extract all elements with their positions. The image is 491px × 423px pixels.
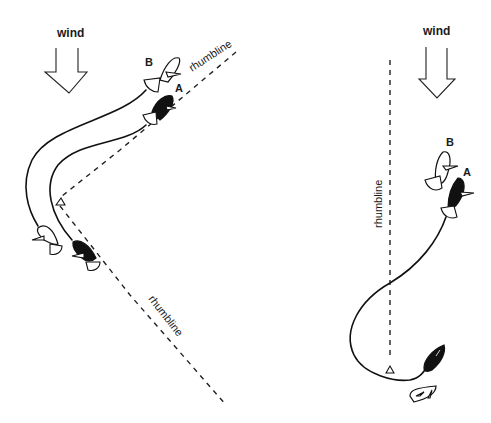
- wind-label: wind: [56, 26, 84, 40]
- rhumbline-lower-label: rhumbline: [146, 293, 185, 338]
- boat-b-label: B: [145, 56, 153, 68]
- boat-a-label: A: [175, 82, 183, 94]
- boat-a-rounding: [424, 345, 445, 371]
- wind-arrow-right-icon: [419, 47, 455, 98]
- boat-b-track: [26, 90, 146, 226]
- rhumbline-upper: [62, 52, 236, 196]
- right-diagram: wind rhumbline B A: [350, 24, 474, 402]
- mark-triangle-icon: [56, 198, 65, 205]
- rhumbline-vertical-label: rhumbline: [372, 180, 384, 228]
- rhumbline-upper-label: rhumbline: [187, 37, 234, 73]
- boat-a-end: [72, 241, 100, 271]
- boat-a-right: [441, 178, 474, 218]
- left-diagram: wind rhumbline rhumbline B A: [26, 26, 236, 405]
- wind-label-right: wind: [422, 24, 450, 38]
- boat-b-label-right: B: [446, 136, 454, 148]
- wind-arrow-icon: [45, 48, 87, 93]
- mark-triangle-right-icon: [386, 366, 394, 373]
- boat-b-rounding: [410, 386, 436, 402]
- boat-a-label-right: A: [463, 166, 471, 178]
- boat-b-end: [32, 226, 62, 255]
- rhumbline-lower: [60, 206, 226, 405]
- sailing-tactics-diagram: wind rhumbline rhumbline B A: [0, 0, 491, 423]
- boat-a-start: [143, 96, 176, 125]
- boat-a-track: [50, 125, 146, 240]
